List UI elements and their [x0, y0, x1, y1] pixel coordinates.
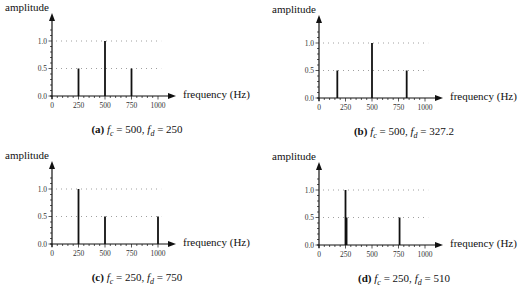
y-tick-label: 0.0 — [38, 240, 48, 249]
x-tick-label: 500 — [366, 103, 378, 112]
x-tick-label: 1000 — [151, 101, 166, 110]
y-axis-arrow-icon — [316, 15, 322, 23]
x-axis-arrow-icon — [435, 242, 443, 248]
x-tick-label: 500 — [99, 101, 111, 110]
x-tick-label: 250 — [340, 103, 352, 112]
y-tick-label: 0.0 — [305, 94, 315, 103]
x-tick-label: 0 — [50, 101, 54, 110]
x-tick-label: 1000 — [418, 103, 433, 112]
subfigure-caption: (d) fc = 250, fd = 510 — [358, 272, 450, 287]
x-tick-label: 750 — [126, 101, 138, 110]
y-tick-label: 1.0 — [38, 185, 48, 194]
x-tick-label: 750 — [393, 250, 405, 259]
x-axis-arrow-icon — [168, 241, 176, 247]
x-tick-label: 750 — [393, 103, 405, 112]
y-tick-label: 0.0 — [305, 241, 315, 250]
y-tick-label: 0.5 — [38, 212, 48, 221]
x-tick-label: 250 — [73, 249, 85, 258]
y-tick-label: 0.5 — [305, 66, 315, 75]
subfigure-caption: (b) fc = 500, fd = 327.2 — [354, 125, 454, 140]
x-tick-label: 500 — [366, 250, 378, 259]
y-axis-arrow-icon — [49, 13, 55, 21]
y-axis-arrow-icon — [316, 162, 322, 170]
y-tick-label: 0.5 — [305, 213, 315, 222]
y-axis-arrow-icon — [49, 161, 55, 169]
panel-a: 025050075010000.00.51.0amplitudefrequenc… — [0, 0, 260, 150]
y-tick-label: 0.5 — [38, 64, 48, 73]
x-tick-label: 1000 — [418, 250, 433, 259]
panel-d: 025050075010000.00.51.0amplitudefrequenc… — [260, 150, 520, 300]
y-axis-label: amplitude — [5, 1, 49, 13]
x-tick-label: 0 — [317, 250, 321, 259]
x-axis-label: frequency (Hz) — [450, 90, 517, 102]
x-axis-label: frequency (Hz) — [450, 237, 517, 249]
y-tick-label: 1.0 — [305, 39, 315, 48]
y-axis-label: amplitude — [272, 3, 316, 15]
y-axis-label: amplitude — [5, 149, 49, 161]
y-tick-label: 1.0 — [305, 186, 315, 195]
subfigure-caption: (c) fc = 250, fd = 750 — [92, 271, 183, 286]
y-tick-label: 1.0 — [38, 37, 48, 46]
x-axis-arrow-icon — [168, 93, 176, 99]
panel-b: 025050075010000.00.51.0amplitudefrequenc… — [260, 0, 520, 150]
x-tick-label: 500 — [99, 249, 111, 258]
y-axis-label: amplitude — [272, 150, 316, 162]
x-tick-label: 1000 — [151, 249, 166, 258]
subfigure-caption: (a) fc = 500, fd = 250 — [91, 123, 182, 138]
x-tick-label: 0 — [317, 103, 321, 112]
panel-c: 025050075010000.00.51.0amplitudefrequenc… — [0, 150, 260, 300]
x-tick-label: 0 — [50, 249, 54, 258]
x-axis-label: frequency (Hz) — [183, 88, 250, 100]
x-tick-label: 750 — [126, 249, 138, 258]
y-tick-label: 0.0 — [38, 92, 48, 101]
x-tick-label: 250 — [340, 250, 352, 259]
x-tick-label: 250 — [73, 101, 85, 110]
x-axis-label: frequency (Hz) — [183, 236, 250, 248]
x-axis-arrow-icon — [435, 95, 443, 101]
